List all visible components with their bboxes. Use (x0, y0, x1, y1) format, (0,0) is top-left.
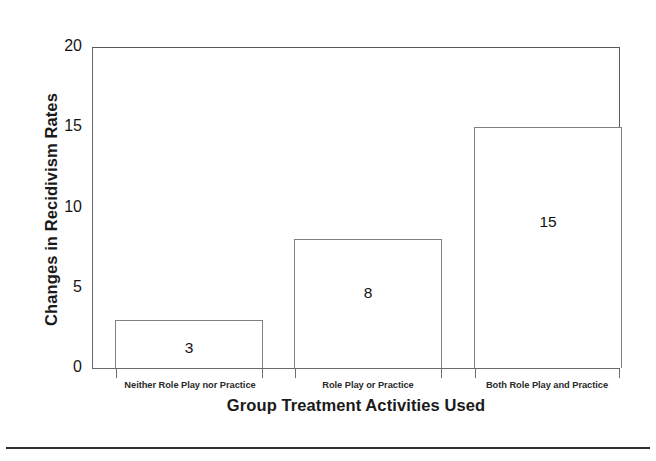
x-axis-title: Group Treatment Activities Used (92, 396, 620, 415)
x-tick-mark-5 (475, 369, 476, 378)
x-axis-label-neither-role-play-nor-practice: Neither Role Play nor Practice (95, 380, 285, 390)
bar-both-role-play-and-practice[interactable]: 15 (474, 127, 622, 369)
bar-value-label-2: 8 (295, 284, 441, 302)
bar-value-label-3: 15 (475, 213, 621, 231)
bar-neither-role-play-nor-practice[interactable]: 3 (115, 320, 263, 368)
y-tick-label-15: 15 (44, 117, 82, 135)
x-tick-mark-6 (619, 369, 620, 378)
x-axis-label-role-play-or-practice: Role Play or Practice (273, 380, 463, 390)
x-tick-mark-4 (441, 369, 442, 378)
x-tick-mark-3 (295, 369, 296, 378)
page-separator-rule (6, 447, 650, 449)
bar-value-label-1: 3 (116, 339, 262, 357)
x-tick-mark-2 (262, 369, 263, 378)
plot-area: 3 8 15 (92, 47, 620, 369)
x-tick-mark-1 (116, 369, 117, 378)
y-axis-tick-labels: 20 15 10 5 0 (44, 0, 84, 461)
bar-role-play-or-practice[interactable]: 8 (294, 239, 442, 368)
y-tick-label-20: 20 (44, 37, 82, 55)
y-tick-label-10: 10 (44, 198, 82, 216)
bar-chart-figure: Changes in Recidivism Rates 20 15 10 5 0… (0, 0, 656, 461)
x-axis-label-both-role-play-and-practice: Both Role Play and Practice (452, 380, 642, 390)
y-tick-label-0: 0 (44, 358, 82, 376)
y-tick-label-5: 5 (44, 278, 82, 296)
